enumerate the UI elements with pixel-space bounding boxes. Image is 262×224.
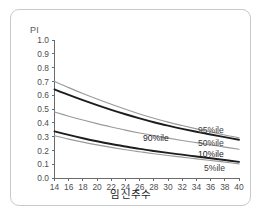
y-tick-label: 0.8 <box>37 63 49 73</box>
series-label-10pctile: 10%ile <box>198 149 224 159</box>
figure-root: PI 1.00.90.80.70.60.50.40.30.20.10.0 141… <box>0 0 262 224</box>
chart-axes <box>52 40 240 181</box>
y-tick-label: 0.9 <box>37 49 49 59</box>
y-tick-label: 0.1 <box>37 159 49 169</box>
y-axis-tick-labels: 1.00.90.80.70.60.50.40.30.20.10.0 <box>37 35 49 183</box>
y-tick-label: 0.0 <box>37 173 49 183</box>
series-label-90pctile: 90%ile <box>143 133 169 143</box>
x-axis-title: 임신주수 <box>0 186 262 201</box>
y-tick-label: 0.2 <box>37 146 49 156</box>
y-tick-label: 0.3 <box>37 132 49 142</box>
y-tick-label: 0.7 <box>37 77 49 87</box>
chart-series-labels: 95%ile90%ile50%ile10%ile5%ile <box>143 125 225 173</box>
y-tick-label: 0.5 <box>37 104 49 114</box>
series-label-50pctile: 50%ile <box>198 138 224 148</box>
series-label-5pctile: 5%ile <box>204 163 225 173</box>
y-tick-label: 0.6 <box>37 90 49 100</box>
series-label-95pctile: 95%ile <box>198 125 224 135</box>
y-tick-label: 0.4 <box>37 118 49 128</box>
y-tick-label: 1.0 <box>37 35 49 45</box>
